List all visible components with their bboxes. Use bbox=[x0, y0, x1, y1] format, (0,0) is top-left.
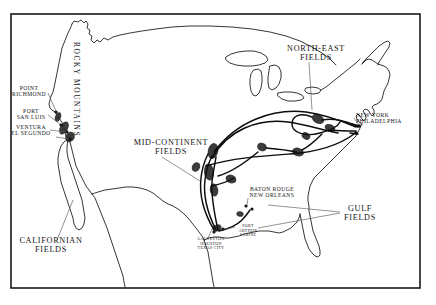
terminal-dot-galveston bbox=[212, 230, 215, 233]
terminal-dot-port-arthur bbox=[221, 227, 224, 230]
map-graphic bbox=[0, 0, 436, 305]
map-background bbox=[0, 0, 436, 305]
oil-pipeline-map: ROCKY MOUNTAINS CALIFORNIAN FIELDS MID-C… bbox=[0, 0, 436, 305]
terminal-dot-new-orleans bbox=[250, 207, 253, 210]
terminal-dot-philadelphia bbox=[354, 131, 358, 135]
